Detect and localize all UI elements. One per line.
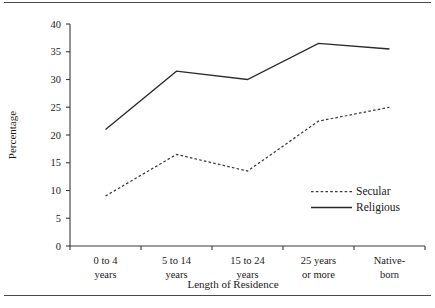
y-tick-label: 5 bbox=[56, 213, 61, 224]
chart-figure: Percentage 0510152025303540 0 to 4years5… bbox=[0, 0, 435, 308]
y-tick-label: 20 bbox=[51, 130, 62, 141]
legend-label-secular: Secular bbox=[356, 185, 391, 197]
y-tick-label: 15 bbox=[51, 157, 62, 168]
y-tick-label: 0 bbox=[56, 241, 61, 252]
y-axis-ticks: 0510152025303540 bbox=[51, 19, 71, 252]
y-axis-title: Percentage bbox=[6, 111, 18, 159]
y-tick-label: 35 bbox=[51, 46, 62, 57]
x-axis-title: Length of Residence bbox=[187, 278, 278, 290]
x-tick-label: years bbox=[165, 269, 187, 280]
legend-label-religious: Religious bbox=[356, 201, 401, 214]
x-tick-label: 15 to 24 bbox=[230, 255, 265, 266]
y-tick-label: 25 bbox=[51, 102, 62, 113]
x-axis-ticks: 0 to 4years5 to 14years15 to 24years25 y… bbox=[70, 246, 425, 280]
x-tick-label: born bbox=[380, 269, 400, 280]
series-line-secular bbox=[106, 107, 390, 196]
series-line-religious bbox=[106, 43, 390, 129]
line-chart-canvas: Percentage 0510152025303540 0 to 4years5… bbox=[0, 0, 435, 308]
y-tick-label: 40 bbox=[51, 19, 62, 30]
y-tick-label: 30 bbox=[51, 74, 62, 85]
y-tick-label: 10 bbox=[51, 185, 62, 196]
x-tick-label: or more bbox=[302, 269, 335, 280]
x-tick-label: Native- bbox=[374, 255, 406, 266]
x-tick-label: 5 to 14 bbox=[162, 255, 192, 266]
x-tick-label: 0 to 4 bbox=[94, 255, 119, 266]
chart-legend: Secular Religious bbox=[311, 185, 401, 214]
x-tick-label: 25 years bbox=[301, 255, 336, 266]
x-tick-label: years bbox=[94, 269, 116, 280]
